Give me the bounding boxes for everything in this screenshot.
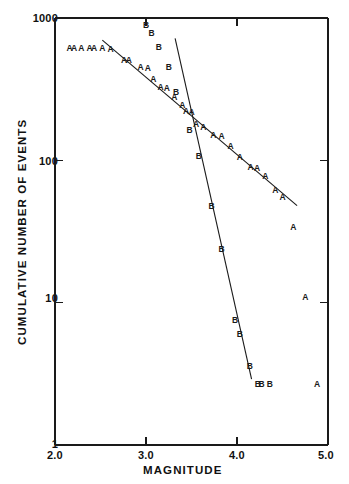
data-point-b-5: B	[187, 126, 193, 135]
data-point-a-2: A	[78, 43, 84, 52]
data-point-b-7: B	[208, 201, 214, 210]
data-point-a-19: A	[200, 123, 206, 132]
data-point-a-31: A	[314, 379, 320, 388]
data-point-b-11: B	[247, 362, 253, 371]
data-point-b-6: B	[196, 151, 202, 160]
x-tick-label-3-0: 3.0	[138, 450, 154, 461]
chart-figure: CUMULATIVE NUMBER OF EVENTS MAGNITUDE 10…	[0, 0, 349, 484]
data-point-b-10: B	[237, 330, 243, 339]
data-point-a-18: A	[193, 120, 199, 129]
x-tick-label-2-0: 2.0	[47, 450, 63, 461]
data-point-a-27: A	[272, 186, 278, 195]
data-point-a-13: A	[164, 84, 170, 93]
data-point-b-2: B	[156, 42, 162, 51]
y-tick-label-100: 100	[39, 156, 58, 167]
x-axis-title: MAGNITUDE	[143, 464, 223, 476]
data-point-a-6: A	[107, 44, 113, 53]
data-point-a-30: A	[302, 293, 308, 302]
x-tick-label-4-0: 4.0	[229, 450, 245, 461]
data-point-a-23: A	[237, 153, 243, 162]
data-point-a-5: A	[99, 44, 105, 53]
data-point-b-8: B	[218, 244, 224, 253]
data-point-a-11: A	[150, 74, 156, 83]
data-point-b-14: B	[267, 379, 273, 388]
y-tick-label-1000: 1000	[33, 13, 58, 24]
data-point-b-1: B	[148, 28, 154, 37]
plot-canvas	[0, 0, 349, 484]
data-point-a-25: A	[254, 163, 260, 172]
data-point-a-20: A	[210, 131, 216, 140]
data-point-b-4: B	[173, 88, 179, 97]
y-axis-title: CUMULATIVE NUMBER OF EVENTS	[16, 119, 28, 345]
data-point-a-1: A	[71, 43, 77, 52]
x-tick-label-5-0: 5.0	[318, 450, 334, 461]
data-point-a-10: A	[145, 64, 151, 73]
data-point-a-9: A	[137, 63, 143, 72]
data-point-a-8: A	[126, 56, 132, 65]
data-point-a-21: A	[218, 132, 224, 141]
data-point-a-29: A	[290, 223, 296, 232]
y-tick-label-10: 10	[45, 293, 58, 304]
data-point-b-3: B	[166, 62, 172, 71]
data-point-a-4: A	[91, 43, 97, 52]
data-point-b-13: B	[258, 379, 264, 388]
data-point-a-26: A	[262, 171, 268, 180]
data-point-b-9: B	[232, 316, 238, 325]
data-point-a-24: A	[248, 163, 254, 172]
data-point-a-28: A	[279, 193, 285, 202]
data-point-a-17: A	[188, 108, 194, 117]
data-point-a-12: A	[157, 82, 163, 91]
data-point-a-22: A	[228, 142, 234, 151]
